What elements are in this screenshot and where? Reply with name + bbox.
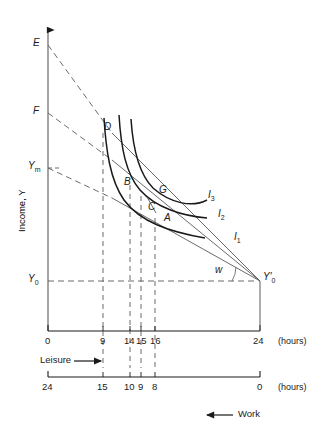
curve-label-I2-sub: 2 [221,214,225,221]
curve-label-I1-sub: 1 [237,237,241,244]
work-tick-8: 8 [152,382,157,392]
indifference-curve-I1 [104,118,205,238]
leisure-tick-9: 9 [100,336,105,346]
y-tick-Ym-base: Y [28,160,35,171]
curve-label-I3: I3 [208,190,215,202]
point-label-D: D [104,122,111,132]
leisure-tick-14: 14 [124,336,135,346]
point-label-G: G [159,185,167,195]
work-tick-0: 0 [257,382,262,392]
curve-label-I2: I2 [218,209,225,221]
leisure-direction-label: Leisure [40,355,71,365]
work-tick-9: 9 [138,382,143,392]
work-direction-label: Work [238,409,260,419]
endpoint-label-sub: 0 [272,277,276,284]
budget-line-F [48,113,260,281]
curve-label-I3-sub: 3 [211,195,215,202]
y-tick-Y0-sub: 0 [35,279,39,286]
wage-angle-label: w [215,265,222,275]
wage-angle-arc [232,267,236,281]
point-label-A: A [164,213,171,223]
work-tick-15: 15 [97,382,108,392]
work-tick-24: 24 [42,382,53,392]
income-leisure-diagram: Income, Y E F Ym Y0 D B G C A I3 I2 I1 w… [0,0,329,434]
work-tick-10: 10 [124,382,135,392]
y-tick-Y0-base: Y [28,273,35,284]
work-axis-unit: (hours) [278,383,307,392]
leisure-tick-0: 0 [45,336,50,346]
leisure-tick-16: 16 [150,336,161,346]
leisure-axis-unit: (hours) [278,337,307,346]
y-tick-F: F [33,106,39,116]
budget-line-Ym [48,168,260,281]
point-label-B: B [124,177,131,187]
indifference-curve-I3 [131,119,207,204]
endpoint-label-base: Y [263,271,270,282]
curve-label-I1: I1 [234,232,241,244]
leisure-tick-15: 15 [136,336,147,346]
y-tick-Y0: Y0 [28,274,39,286]
endpoint-label-Y0prime: Y′0 [263,272,275,284]
work-axis-line [48,371,260,377]
point-label-C: C [148,202,155,212]
y-tick-Ym: Ym [28,161,41,173]
y-axis-title: Income, Y [16,189,27,232]
leisure-axis-line [48,325,260,331]
work-axis-ticks [103,372,155,377]
leisure-axis-ticks [103,326,155,331]
y-tick-Ym-sub: m [35,166,41,173]
budget-line-E [48,45,260,281]
y-tick-E: E [33,38,40,48]
leisure-tick-24: 24 [253,336,264,346]
